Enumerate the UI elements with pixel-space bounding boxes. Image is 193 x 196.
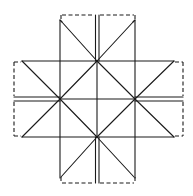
left-flap: [14, 61, 60, 137]
diamond-top-right: [97, 61, 135, 99]
left-diagonal-bottom: [22, 99, 60, 137]
diamond-bottom-right: [97, 99, 135, 137]
diamond-bottom-left: [60, 99, 97, 137]
top-diagonal-left: [61, 21, 97, 61]
left-diagonal-top: [22, 61, 60, 99]
top-flap: [60, 15, 135, 61]
right-flap: [135, 61, 183, 137]
bottom-flap: [61, 137, 135, 183]
bottom-diagonal-right: [97, 137, 134, 177]
right-diagonal-top: [135, 61, 174, 99]
right-diagonal-bottom: [135, 99, 174, 137]
top-diagonal-right: [97, 21, 134, 61]
bottom-diagonal-left: [61, 137, 97, 177]
central-square: [22, 20, 174, 178]
crease-pattern-diagram: [0, 0, 193, 196]
diamond-top-left: [60, 61, 97, 99]
